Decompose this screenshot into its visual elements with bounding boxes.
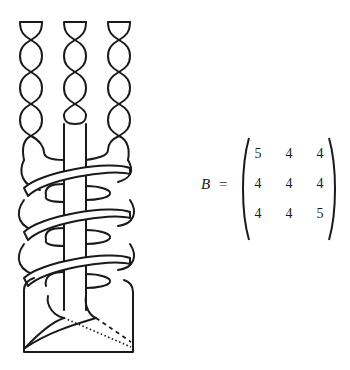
right-paren bbox=[327, 136, 339, 242]
twisted-ribbon-right bbox=[108, 22, 130, 136]
coiled-band bbox=[19, 160, 134, 318]
left-ribbon-join bbox=[23, 136, 64, 160]
base-box bbox=[24, 278, 133, 352]
right-ribbon-join bbox=[86, 136, 129, 160]
matrix-cell: 4 bbox=[251, 206, 265, 222]
matrix-cell: 4 bbox=[282, 146, 296, 162]
equals-sign: = bbox=[219, 176, 227, 193]
matrix-cell: 5 bbox=[313, 206, 327, 222]
matrix-equation: B = 5 4 4 4 4 4 4 4 5 bbox=[201, 136, 341, 242]
dashed-path bbox=[96, 318, 131, 342]
matrix-cell: 5 bbox=[251, 146, 265, 162]
left-paren bbox=[239, 136, 251, 242]
matrix-cell: 4 bbox=[251, 176, 265, 192]
twisted-ribbon-middle bbox=[64, 22, 86, 115]
matrix-cell: 4 bbox=[282, 176, 296, 192]
dotted-path bbox=[64, 318, 131, 347]
matrix-cell: 4 bbox=[282, 206, 296, 222]
twisted-ribbon-left bbox=[20, 22, 42, 136]
matrix-symbol: B bbox=[201, 176, 210, 193]
matrix-cell: 4 bbox=[313, 146, 327, 162]
matrix-cell: 4 bbox=[313, 176, 327, 192]
